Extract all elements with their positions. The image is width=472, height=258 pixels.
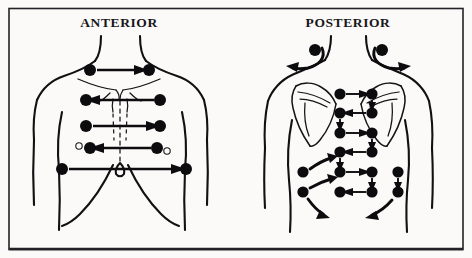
site-dot <box>80 94 92 106</box>
site-dot <box>80 120 92 132</box>
chest-sequence-figure: ANTERIOR POSTERIOR <box>0 0 472 258</box>
site-dot <box>143 64 155 76</box>
site-dot <box>84 64 96 76</box>
site-dot <box>297 166 308 177</box>
site-dot <box>392 166 403 177</box>
panel-title-anterior: ANTERIOR <box>80 15 158 30</box>
site-dot <box>56 163 68 175</box>
site-dot <box>334 127 345 138</box>
diagram-page: ANTERIOR POSTERIOR <box>0 0 472 258</box>
site-dot <box>151 142 163 154</box>
site-dot <box>366 127 377 138</box>
site-dot <box>392 186 403 197</box>
site-dot <box>84 142 96 154</box>
site-dot <box>366 186 377 197</box>
site-dot <box>154 94 166 106</box>
site-dot <box>366 107 377 118</box>
site-dot <box>334 107 345 118</box>
site-dot <box>309 44 321 56</box>
site-dot <box>366 88 377 99</box>
site-dot <box>376 44 388 56</box>
site-dot <box>366 146 377 157</box>
site-dot <box>180 163 192 175</box>
panel-title-posterior: POSTERIOR <box>306 15 391 30</box>
site-dot <box>334 186 345 197</box>
site-dot <box>366 166 377 177</box>
site-dot <box>334 88 345 99</box>
site-dot <box>334 166 345 177</box>
page-background <box>0 0 472 258</box>
site-dot <box>154 120 166 132</box>
site-dot <box>297 186 308 197</box>
